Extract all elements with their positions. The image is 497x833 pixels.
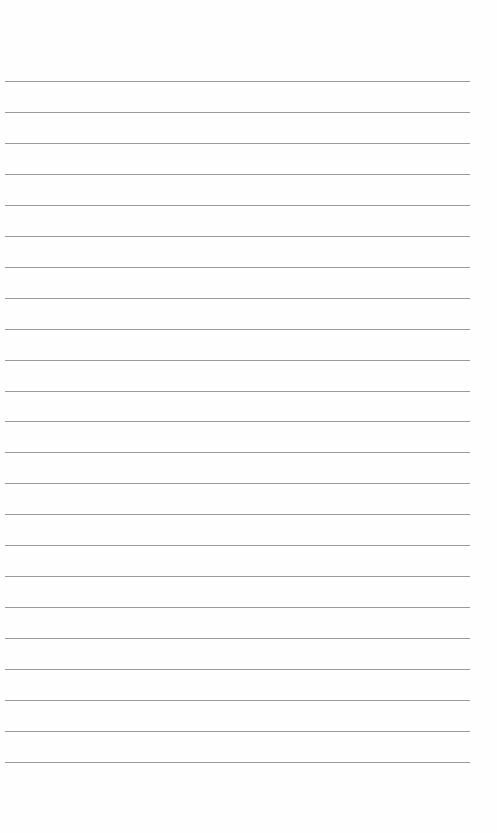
ruled-line (5, 391, 470, 392)
ruled-line (5, 607, 470, 608)
ruled-line (5, 81, 470, 82)
ruled-line (5, 360, 470, 361)
ruled-line (5, 483, 470, 484)
ruled-line (5, 205, 470, 206)
ruled-line (5, 638, 470, 639)
ruled-line (5, 514, 470, 515)
ruled-line (5, 236, 470, 237)
lined-paper-page (0, 0, 497, 833)
ruled-line (5, 545, 470, 546)
ruled-line (5, 452, 470, 453)
ruled-line (5, 731, 470, 732)
ruled-line (5, 421, 470, 422)
ruled-line (5, 298, 470, 299)
ruled-line (5, 762, 470, 763)
ruled-line (5, 267, 470, 268)
ruled-line (5, 329, 470, 330)
ruled-line (5, 112, 470, 113)
ruled-line (5, 669, 470, 670)
ruled-line (5, 576, 470, 577)
ruled-line (5, 700, 470, 701)
ruled-line (5, 143, 470, 144)
ruled-line (5, 174, 470, 175)
